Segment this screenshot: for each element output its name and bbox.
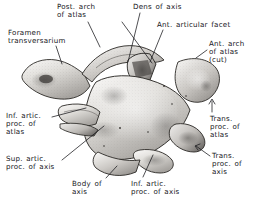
label-post-arch-of-atlas: Post. arch of atlas bbox=[57, 3, 95, 19]
label-dens-of-axis: Dens of axis bbox=[133, 3, 182, 11]
label-inf-artic-proc-of-atlas: Inf. artic. proc. of atlas bbox=[6, 112, 41, 137]
label-body-of-axis: Body of axis bbox=[72, 180, 102, 196]
label-foramen-transversarium: Foramen transversarium bbox=[8, 29, 66, 45]
label-trans-proc-of-atlas: Trans. proc. of atlas bbox=[210, 115, 240, 140]
label-ant-articular-facet: Ant. articular facet bbox=[157, 21, 230, 29]
label-inf-artic-proc-of-axis: Inf. artic. proc. of axis bbox=[131, 180, 180, 196]
label-trans-proc-of-axis: Trans. proc. of axis bbox=[212, 152, 242, 177]
label-ant-arch-of-atlas: Ant. arch of atlas (cut) bbox=[209, 40, 244, 65]
anatomical-figure: Post. arch of atlas Dens of axis Ant. ar… bbox=[0, 0, 254, 204]
label-sup-artic-proc-of-axis: Sup. artic. proc. of axis bbox=[6, 155, 55, 171]
